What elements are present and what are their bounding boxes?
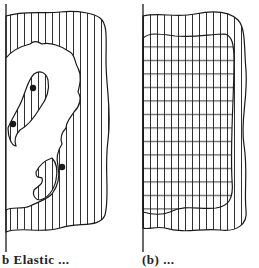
left-dot-1 <box>30 85 36 91</box>
caption-right: (b) ... <box>142 252 174 268</box>
caption-left: b Elastic ... <box>2 252 70 268</box>
left-dot-3 <box>59 164 65 170</box>
figure-caption: b Elastic ... (b) ... <box>0 252 259 266</box>
right-panel <box>143 4 246 252</box>
left-panel <box>6 4 109 252</box>
right-inner-region <box>143 34 234 214</box>
left-dot-2 <box>10 121 16 127</box>
